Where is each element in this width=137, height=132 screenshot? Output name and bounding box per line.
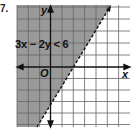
- y-axis-label: y: [41, 4, 47, 16]
- y-axis-arrow-down: [48, 121, 53, 127]
- origin-label: O: [40, 67, 49, 79]
- x-axis-label: x: [122, 68, 128, 80]
- inequality-label: 3x − 2y < 6: [15, 38, 68, 50]
- shaded-region: [17, 5, 111, 127]
- inequality-graph: [0, 0, 137, 132]
